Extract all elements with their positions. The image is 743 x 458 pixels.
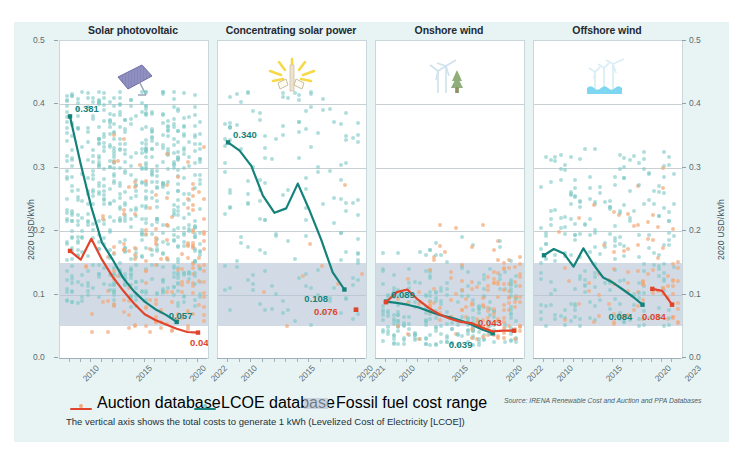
y-tick-label: 0.3: [33, 162, 45, 172]
x-tick-mark: [69, 359, 70, 362]
y-tick-mark: [682, 230, 686, 231]
x-tick-label: 2010: [397, 363, 417, 383]
series-endpoint-marker: [354, 308, 358, 312]
series-endpoint-marker: [196, 330, 200, 334]
axis-note: The vertical axis shows the total costs …: [66, 416, 465, 427]
y-tick-label: 0.4: [33, 98, 45, 108]
end-value-label: 0.084: [608, 311, 632, 322]
y-tick-label: 0.5: [33, 35, 45, 45]
x-tick-mark: [144, 359, 145, 362]
x-tick-label: 2015: [297, 363, 317, 383]
x-tick-mark: [262, 359, 263, 362]
end-value-label: 0.043: [478, 317, 502, 328]
x-tick-mark: [122, 359, 123, 362]
x-tick-label: 2020: [503, 363, 523, 383]
series-endpoint-marker: [512, 329, 516, 333]
x-tick-mark: [513, 359, 514, 362]
y-tick-label: 0.2: [33, 225, 45, 235]
x-tick-mark: [460, 359, 461, 362]
y-tick-mark: [682, 167, 686, 168]
x-tick-mark: [239, 359, 240, 362]
end-value-label: 0.040: [190, 337, 209, 348]
x-tick-mark: [355, 359, 356, 362]
x-axis-line: [533, 358, 681, 359]
x-tick-mark: [176, 359, 177, 362]
panel-title-onshore-wind: Onshore wind: [375, 24, 523, 36]
x-tick-mark: [154, 359, 155, 362]
series-line-auction-database: [652, 289, 672, 305]
series-endpoint-marker: [342, 287, 346, 291]
y-tick-label: 0.3: [689, 162, 701, 172]
x-tick-mark: [250, 359, 251, 362]
series-endpoint-marker: [68, 249, 72, 253]
lcoe-dot-swatch: [203, 404, 207, 408]
series-endpoint-marker: [226, 140, 230, 144]
x-tick-label: 2015: [604, 363, 624, 383]
x-tick-label: 2020: [187, 363, 207, 383]
x-tick-mark: [343, 359, 344, 362]
x-tick-mark: [428, 359, 429, 362]
x-tick-mark: [285, 359, 286, 362]
panel-title-offshore-wind: Offshore wind: [533, 24, 681, 36]
panel-title-concentrating-solar-power: Concentrating solar power: [217, 24, 365, 36]
y-tick-mark: [54, 357, 58, 358]
x-tick-mark: [502, 359, 503, 362]
y-tick-mark: [682, 294, 686, 295]
x-tick-mark: [492, 359, 493, 362]
y-tick-mark: [54, 103, 58, 104]
x-tick-mark: [406, 359, 407, 362]
end-value-label: 0.076: [314, 306, 338, 317]
y-tick-mark: [682, 103, 686, 104]
legend-fossil-band: Fossil fuel cost range: [304, 394, 487, 412]
x-tick-label: 2022: [209, 363, 229, 383]
fossil-band-swatch: [304, 398, 328, 409]
plot-area-3[interactable]: 0.0390.0890.043: [375, 40, 525, 359]
series-line-lcoe-database: [386, 302, 493, 334]
x-tick-mark: [165, 359, 166, 362]
series-line-lcoe-database: [228, 142, 344, 289]
end-value-label: 0.108: [304, 293, 328, 304]
x-tick-mark: [592, 359, 593, 362]
x-tick-mark: [186, 359, 187, 362]
x-tick-label: 2015: [134, 363, 154, 383]
x-tick-mark: [622, 359, 623, 362]
x-tick-mark: [543, 359, 544, 362]
x-tick-mark: [641, 359, 642, 362]
y-tick-mark: [682, 357, 686, 358]
end-value-label: 0.039: [449, 339, 473, 350]
y-axis-label-right: 2020 USD/kWh: [716, 199, 726, 260]
x-tick-mark: [90, 359, 91, 362]
x-tick-mark: [385, 359, 386, 362]
x-tick-mark: [438, 359, 439, 362]
x-tick-mark: [651, 359, 652, 362]
plot-area-4[interactable]: 0.0840.084: [533, 40, 683, 359]
x-tick-mark: [80, 359, 81, 362]
figure-root: 2020 USD/kWh 2020 USD/kWh Solar photovol…: [0, 0, 743, 458]
x-tick-mark: [197, 359, 198, 362]
x-tick-mark: [227, 359, 228, 362]
end-value-label: 0.084: [642, 311, 666, 322]
x-tick-mark: [573, 359, 574, 362]
x-tick-label: 2020: [653, 363, 673, 383]
x-tick-mark: [612, 359, 613, 362]
plot-area-2[interactable]: 0.1080.3400.076: [217, 40, 367, 359]
plot-area-1[interactable]: 0.0570.3810.040: [59, 40, 209, 359]
y-tick-mark: [54, 167, 58, 168]
x-tick-mark: [274, 359, 275, 362]
x-tick-mark: [553, 359, 554, 362]
x-tick-mark: [563, 359, 564, 362]
x-tick-mark: [481, 359, 482, 362]
x-tick-mark: [332, 359, 333, 362]
y-tick-mark: [54, 294, 58, 295]
x-tick-mark: [308, 359, 309, 362]
series-layer: [376, 41, 524, 358]
x-tick-label: 2023: [683, 363, 703, 383]
legend-band-label: Fossil fuel cost range: [336, 394, 487, 412]
start-value-label: 0.340: [233, 129, 257, 140]
x-tick-mark: [101, 359, 102, 362]
y-tick-label: 0.4: [689, 98, 701, 108]
y-tick-label: 0.5: [689, 35, 701, 45]
panel-title-solar-photovoltaic: Solar photovoltaic: [59, 24, 207, 36]
x-tick-mark: [133, 359, 134, 362]
x-tick-mark: [449, 359, 450, 362]
